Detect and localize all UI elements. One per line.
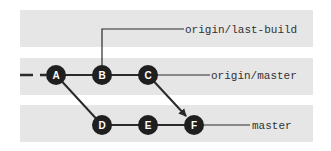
commit-node-b: B — [92, 65, 112, 85]
commit-node-c: C — [138, 65, 158, 85]
ref-label-origin-last-build: origin/last-build — [185, 24, 297, 36]
svg-text:A: A — [52, 70, 59, 81]
commit-graph: A B C D E F origin/last-build origin/mas… — [0, 0, 331, 151]
commit-node-a: A — [46, 65, 66, 85]
svg-text:C: C — [144, 70, 151, 81]
svg-text:F: F — [191, 120, 197, 131]
commit-node-d: D — [92, 115, 112, 135]
svg-text:B: B — [98, 70, 105, 81]
commit-node-f: F — [184, 115, 204, 135]
ref-label-origin-master: origin/master — [211, 70, 297, 82]
edge-a-d — [56, 75, 102, 125]
svg-text:E: E — [145, 120, 152, 131]
svg-text:D: D — [98, 120, 105, 131]
commit-node-e: E — [138, 115, 158, 135]
ref-label-master: master — [252, 120, 292, 132]
